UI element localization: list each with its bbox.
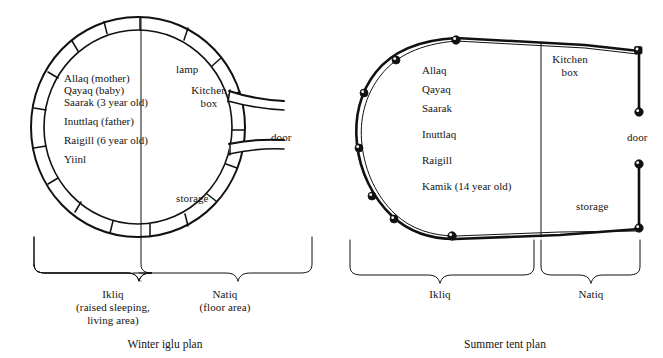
iglu-ikliq-brace-arm	[139, 273, 152, 281]
summer-occupant-4: Raigill	[422, 154, 512, 166]
winter-occupant-3: Inuttlaq (father)	[64, 115, 148, 127]
winter-lamp-label: lamp	[176, 63, 198, 76]
summer-occupant-0: Allaq	[422, 64, 512, 76]
summer-occupant-gap-2b	[422, 121, 512, 128]
summer-storage-label: storage	[576, 200, 608, 213]
summer-occupant-1: Qayaq	[422, 83, 512, 95]
winter-door-label: door	[271, 131, 292, 144]
tent-zone-braces	[350, 240, 640, 283]
summer-occupant-5: Kamik (14 year old)	[422, 180, 512, 192]
summer-occupant-3: Inuttlaq	[422, 128, 512, 140]
winter-kitchen-box-label-line2: box	[201, 97, 218, 110]
summer-zone-natiq-name: Natiq	[579, 288, 604, 301]
iglu-zone-braces	[34, 237, 312, 281]
summer-plan-caption: Summer tent plan	[464, 338, 546, 350]
winter-occupant-2: Saarak (3 year old)	[64, 96, 148, 108]
summer-occupant-gap-2	[422, 114, 512, 121]
winter-zone-ikliq-name: Ikliq	[102, 288, 123, 301]
winter-zone-natiq-desc-1: (floor area)	[200, 301, 251, 314]
winter-occupant-gap-3	[64, 146, 148, 153]
summer-occupant-list: Allaq Qayaq Saarak Inuttlaq Raigill Kami…	[422, 64, 512, 192]
summer-occupant-2: Saarak	[422, 102, 512, 114]
summer-zone-ikliq-name: Ikliq	[429, 288, 450, 301]
winter-occupant-1: Qayaq (baby)	[64, 84, 148, 96]
winter-zone-ikliq-desc-2: living area)	[87, 314, 139, 327]
summer-occupant-gap-0	[422, 76, 512, 83]
winter-storage-label: storage	[176, 192, 208, 205]
summer-kitchen-box-label-line2: box	[562, 66, 579, 79]
figure-root: Allaq (mother) Qayaq (baby) Saarak (3 ye…	[0, 0, 663, 358]
winter-occupant-0: Allaq (mother)	[64, 72, 148, 84]
summer-kitchen-box-label-line1: Kitchen	[552, 53, 588, 66]
summer-occupant-gap-4	[422, 166, 512, 173]
winter-occupant-4: Raigill (6 year old)	[64, 134, 148, 146]
summer-occupant-gap-1	[422, 95, 512, 102]
winter-plan-caption: Winter iglu plan	[128, 338, 203, 350]
summer-occupant-gap-3b	[422, 147, 512, 154]
summer-occupant-gap-3	[422, 140, 512, 147]
winter-occupant-5: Yiinl	[64, 153, 148, 165]
winter-zone-natiq-name: Natiq	[213, 288, 238, 301]
winter-occupant-gap-1	[64, 108, 148, 115]
summer-occupant-gap-4b	[422, 173, 512, 180]
summer-door-label: door	[627, 131, 648, 144]
winter-zone-ikliq-desc-1: (raised sleeping,	[76, 301, 150, 314]
winter-occupant-gap-2	[64, 127, 148, 134]
winter-kitchen-box-label-line1: Kitchen	[191, 84, 227, 97]
winter-occupant-list: Allaq (mother) Qayaq (baby) Saarak (3 ye…	[64, 72, 148, 165]
